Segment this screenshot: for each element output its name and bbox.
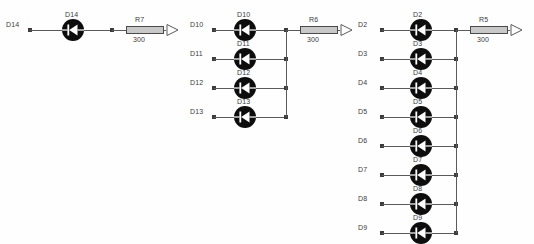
- diode-ref-label-D2: D2: [413, 11, 422, 19]
- net-label-D7: D7: [358, 166, 367, 174]
- net-label-D9: D9: [358, 224, 367, 232]
- diode-ref-label-D7: D7: [413, 156, 422, 164]
- wire-segment: [432, 88, 456, 89]
- vertical-bus: [456, 30, 457, 233]
- diode-D4[interactable]: [410, 77, 432, 99]
- net-label-D8: D8: [358, 195, 367, 203]
- net-label-D3: D3: [358, 50, 367, 58]
- diode-ref-label-D9: D9: [413, 214, 422, 222]
- wire-segment: [382, 175, 410, 176]
- diode-D8[interactable]: [410, 193, 432, 215]
- circuit-group-group-right: D2D2D3D3D4D4D5D5D6D6D7D7D8D8D9D9R5300: [0, 0, 534, 244]
- net-label-D6: D6: [358, 137, 367, 145]
- diode-D2[interactable]: [410, 19, 432, 41]
- diode-D9[interactable]: [410, 222, 432, 244]
- diode-ref-label-D3: D3: [413, 40, 422, 48]
- wire-segment: [432, 117, 456, 118]
- wire-segment: [432, 146, 456, 147]
- diode-D3[interactable]: [410, 48, 432, 70]
- wire-segment: [432, 175, 456, 176]
- diode-ref-label-D8: D8: [413, 185, 422, 193]
- wire-segment: [382, 88, 410, 89]
- wire-segment: [382, 204, 410, 205]
- wire-segment: [432, 204, 456, 205]
- diode-D5[interactable]: [410, 106, 432, 128]
- diode-ref-label-D6: D6: [413, 127, 422, 135]
- resistor-R5[interactable]: [470, 26, 508, 34]
- diode-ref-label-D4: D4: [413, 69, 422, 77]
- net-label-D2: D2: [358, 21, 367, 29]
- wire-segment: [382, 117, 410, 118]
- wire-segment: [382, 146, 410, 147]
- wire-segment: [382, 233, 410, 234]
- diode-D7[interactable]: [410, 164, 432, 186]
- wire-segment: [382, 30, 410, 31]
- schematic-canvas: D14D14R7300D10D10D11D11D12D12D13D13R6300…: [0, 0, 534, 244]
- diode-ref-label-D5: D5: [413, 98, 422, 106]
- wire-segment: [432, 233, 456, 234]
- net-label-D5: D5: [358, 108, 367, 116]
- net-label-D4: D4: [358, 79, 367, 87]
- resistor-ref-label-R5: R5: [479, 16, 488, 24]
- wire-segment: [456, 30, 470, 31]
- wire-segment: [432, 59, 456, 60]
- wire-segment: [382, 59, 410, 60]
- resistor-value-label-R5: 300: [477, 36, 489, 44]
- diode-D6[interactable]: [410, 135, 432, 157]
- output-port-arrow[interactable]: [510, 23, 523, 37]
- wire-segment: [432, 30, 456, 31]
